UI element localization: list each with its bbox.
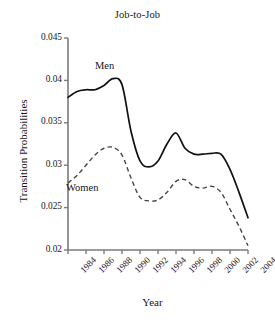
series-label-men: Men [95,60,114,71]
series-label-women: Women [66,182,98,193]
plot-area [0,0,275,322]
chart-figure: Job-to-Job Transition Probabilities Year… [0,0,275,322]
series-line-men [68,78,248,218]
